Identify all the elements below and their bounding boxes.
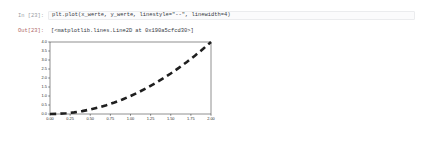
svg-text:3.5: 3.5	[42, 48, 47, 53]
input-prompt-label: In [23]:	[0, 11, 48, 21]
svg-text:2.0: 2.0	[42, 75, 48, 80]
svg-text:2.00: 2.00	[207, 116, 215, 121]
svg-text:2.5: 2.5	[42, 66, 47, 71]
svg-text:1.75: 1.75	[187, 116, 195, 121]
code-input-text: plt.plot(x_werte, y_werte, linestyle="--…	[52, 11, 230, 20]
svg-text:0.00: 0.00	[46, 116, 54, 121]
output-cell: Out[23]: [<matplotlib.lines.Line2D at 0x…	[0, 26, 423, 36]
input-cell[interactable]: In [23]: plt.plot(x_werte, y_werte, line…	[0, 11, 423, 21]
plot-canvas: 0.000.250.500.751.001.251.501.752.000.00…	[36, 38, 216, 138]
svg-text:1.50: 1.50	[167, 116, 175, 121]
output-repr-text: [<matplotlib.lines.Line2D at 0x190a5cfcd…	[48, 26, 194, 36]
svg-text:4.0: 4.0	[42, 39, 48, 44]
svg-text:1.25: 1.25	[147, 116, 155, 121]
svg-text:3.0: 3.0	[42, 57, 48, 62]
svg-text:0.50: 0.50	[86, 116, 94, 121]
svg-text:1.00: 1.00	[127, 116, 135, 121]
code-input-box[interactable]: plt.plot(x_werte, y_werte, linestyle="--…	[48, 11, 415, 20]
svg-text:0.5: 0.5	[42, 102, 47, 107]
notebook-cell-area: In [23]: plt.plot(x_werte, y_werte, line…	[0, 0, 423, 142]
matplotlib-figure: 0.000.250.500.751.001.251.501.752.000.00…	[36, 38, 216, 138]
output-prompt-label: Out[23]:	[0, 26, 48, 36]
svg-text:1.5: 1.5	[42, 84, 47, 89]
svg-text:1.0: 1.0	[42, 93, 48, 98]
svg-text:0.25: 0.25	[66, 116, 74, 121]
svg-text:0.75: 0.75	[107, 116, 115, 121]
svg-text:0.0: 0.0	[42, 111, 48, 116]
